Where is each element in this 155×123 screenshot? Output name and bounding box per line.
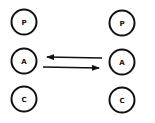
right-adult-ego-state: A <box>110 50 135 75</box>
ego-state-label: P <box>119 20 124 28</box>
left-child-ego-state: C <box>12 87 37 112</box>
arrow-right-to-left-icon <box>47 57 102 58</box>
transaction-arrows <box>43 57 102 68</box>
left-adult-ego-state: A <box>12 49 37 74</box>
ego-state-label: C <box>119 97 124 105</box>
ego-state-label: P <box>21 19 26 27</box>
ego-state-label: A <box>119 59 125 67</box>
arrow-left-to-right-icon <box>43 67 99 68</box>
right-child-ego-state: C <box>110 88 135 113</box>
ego-state-label: C <box>21 96 26 104</box>
left-person-ego-states: PAC <box>12 10 37 112</box>
ego-state-label: A <box>21 58 27 66</box>
right-person-ego-states: PAC <box>110 11 135 113</box>
transaction-diagram: PAC PAC <box>0 0 155 123</box>
right-parent-ego-state: P <box>110 11 135 36</box>
left-parent-ego-state: P <box>12 10 37 35</box>
